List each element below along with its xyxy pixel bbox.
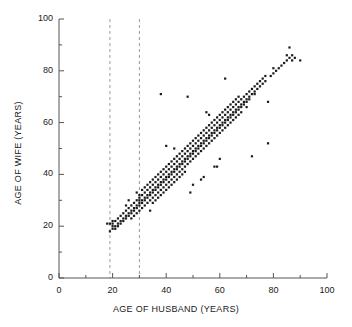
data-point [251, 155, 253, 157]
data-point [227, 116, 229, 118]
data-point [141, 202, 143, 204]
data-point [162, 168, 164, 170]
data-point [200, 137, 202, 139]
data-point [216, 166, 218, 168]
data-point [219, 119, 221, 121]
data-point [237, 96, 239, 98]
data-point [248, 96, 250, 98]
data-point [184, 171, 186, 173]
data-point [146, 194, 148, 196]
data-point [187, 96, 189, 98]
data-point [216, 134, 218, 136]
data-point [208, 137, 210, 139]
data-point [165, 184, 167, 186]
data-point [237, 101, 239, 103]
data-point [248, 90, 250, 92]
data-point [219, 158, 221, 160]
data-point [203, 176, 205, 178]
data-point [243, 103, 245, 105]
data-point [270, 75, 272, 77]
data-point [189, 191, 191, 193]
data-point [224, 122, 226, 124]
data-point [125, 210, 127, 212]
data-point [246, 93, 248, 95]
y-tick-label-80: 80 [27, 65, 53, 75]
data-point [299, 59, 301, 61]
data-point [106, 223, 108, 225]
data-point [128, 212, 130, 214]
data-point [227, 106, 229, 108]
data-point [154, 189, 156, 191]
data-point [235, 109, 237, 111]
y-axis-title: AGE OF WIFE (YEARS) [13, 73, 23, 233]
data-point [224, 119, 226, 121]
data-point [200, 142, 202, 144]
data-point [179, 163, 181, 165]
data-point [200, 178, 202, 180]
data-point [221, 124, 223, 126]
data-point [114, 220, 116, 222]
data-point [128, 207, 130, 209]
data-point [141, 199, 143, 201]
data-point [240, 106, 242, 108]
data-point [149, 199, 151, 201]
data-point [160, 184, 162, 186]
data-point [146, 184, 148, 186]
data-point [168, 168, 170, 170]
data-point [205, 132, 207, 134]
data-point [149, 210, 151, 212]
reference-lines-group [110, 19, 139, 278]
data-point [216, 116, 218, 118]
data-point [229, 109, 231, 111]
data-point [189, 142, 191, 144]
data-point [168, 163, 170, 165]
data-point [117, 217, 119, 219]
data-point [232, 101, 234, 103]
data-point [187, 163, 189, 165]
data-point [251, 93, 253, 95]
data-point [176, 168, 178, 170]
data-point [227, 124, 229, 126]
data-point [125, 217, 127, 219]
data-point [160, 189, 162, 191]
data-point [160, 171, 162, 173]
data-point [216, 129, 218, 131]
data-point [179, 153, 181, 155]
data-point [267, 142, 269, 144]
data-point [248, 98, 250, 100]
data-point [160, 176, 162, 178]
data-point [259, 80, 261, 82]
data-point [128, 199, 130, 201]
data-point [288, 46, 290, 48]
data-point [168, 181, 170, 183]
data-point [176, 173, 178, 175]
data-point [288, 57, 290, 59]
data-point [181, 155, 183, 157]
data-point [176, 160, 178, 162]
data-point [224, 109, 226, 111]
data-point [189, 147, 191, 149]
data-point [251, 88, 253, 90]
data-point [162, 181, 164, 183]
data-point [262, 83, 264, 85]
data-point [120, 223, 122, 225]
data-point [213, 124, 215, 126]
data-point [243, 101, 245, 103]
data-point [197, 140, 199, 142]
data-point [146, 189, 148, 191]
data-point [125, 204, 127, 206]
data-point [112, 225, 114, 227]
data-point [213, 166, 215, 168]
x-tick-label-60: 60 [205, 285, 235, 295]
x-tick-label-40: 40 [151, 285, 181, 295]
data-point [232, 111, 234, 113]
data-point [152, 191, 154, 193]
data-point [192, 184, 194, 186]
data-point [120, 220, 122, 222]
data-point [189, 155, 191, 157]
data-point [211, 132, 213, 134]
data-point [254, 85, 256, 87]
data-point [154, 194, 156, 196]
data-point [254, 90, 256, 92]
data-point [227, 111, 229, 113]
